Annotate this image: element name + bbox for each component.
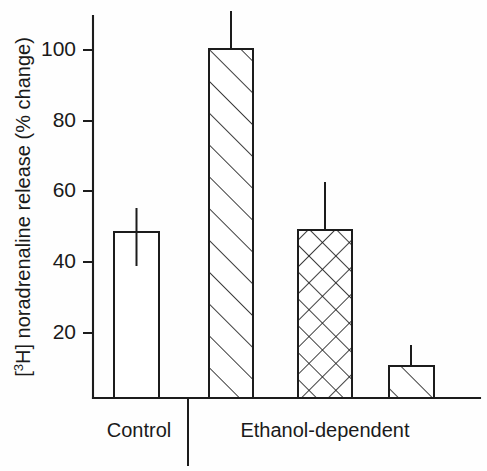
bar-chart: 100 80 60 40 20 [3H] noradrenaline relea… [0, 0, 487, 471]
y-tick-label-60: 60 [53, 178, 76, 201]
y-tick-label-100: 100 [41, 37, 76, 60]
bar-2-fill [209, 49, 253, 398]
y-axis-label-main: H] noradrenaline release (% change) [12, 37, 34, 364]
bar-1-control[interactable] [114, 208, 159, 398]
category-label-ethanol-dependent: Ethanol-dependent [240, 419, 409, 441]
y-axis-label-superscript: 3 [11, 364, 26, 371]
bar-4-fill [389, 366, 434, 398]
y-tick-label-80: 80 [53, 108, 76, 131]
y-tick-label-20: 20 [53, 320, 76, 343]
y-axis-label: [3H] noradrenaline release (% change) [11, 37, 35, 377]
figure-container: 100 80 60 40 20 [3H] noradrenaline relea… [0, 0, 487, 471]
category-label-control: Control [107, 419, 171, 441]
bar-3-ethanol-dependent[interactable] [298, 182, 352, 398]
bar-3-fill [298, 230, 352, 398]
bar-4-ethanol-dependent[interactable] [389, 345, 434, 398]
y-tick-label-40: 40 [53, 249, 76, 272]
bar-2-ethanol-dependent[interactable] [209, 11, 253, 398]
